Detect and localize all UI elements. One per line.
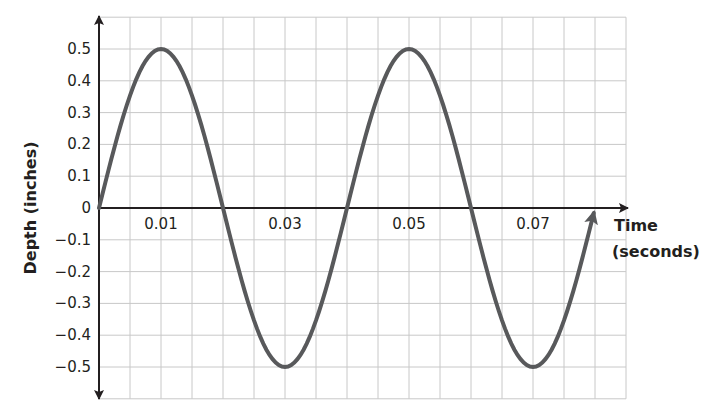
y-tick-label: 0.2 [67, 135, 91, 153]
x-tick-label: 0.07 [516, 215, 549, 233]
y-tick-label: −0.4 [55, 326, 91, 344]
y-tick-label: −0.3 [55, 294, 91, 312]
y-tick-label: 0.3 [67, 104, 91, 122]
x-axis-label-line1: Time [614, 216, 658, 235]
x-tick-label: 0.03 [268, 215, 301, 233]
y-tick-label: 0 [81, 199, 91, 217]
y-axis-label: Depth (inches) [21, 142, 40, 275]
y-tick-label: 0.5 [67, 40, 91, 58]
y-tick-label: 0.1 [67, 167, 91, 185]
axes [99, 16, 628, 399]
depth-vs-time-chart: 0.50.40.30.20.10−0.1−0.2−0.3−0.4−0.5 0.0… [0, 0, 711, 414]
y-tick-label: −0.2 [55, 263, 91, 281]
y-tick-label: 0.4 [67, 72, 91, 90]
x-tick-label: 0.01 [144, 215, 177, 233]
y-tick-labels: 0.50.40.30.20.10−0.1−0.2−0.3−0.4−0.5 [55, 40, 91, 376]
y-tick-label: −0.5 [55, 358, 91, 376]
y-tick-label: −0.1 [55, 231, 91, 249]
x-tick-label: 0.05 [392, 215, 425, 233]
x-axis-label-line2: (seconds) [612, 242, 700, 261]
